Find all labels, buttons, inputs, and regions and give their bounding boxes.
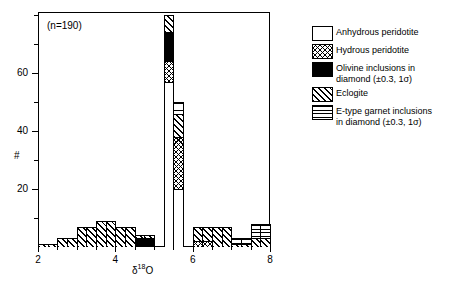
- x-axis-title-element: O: [145, 265, 153, 276]
- legend-item: Eclogite: [312, 87, 455, 102]
- y-tick-minor: [34, 160, 38, 161]
- sample-count-annotation: (n=190): [47, 20, 82, 31]
- bar-segment-garnet-inclusions: [260, 224, 271, 239]
- legend-swatch-diagonal-hatch: [312, 87, 333, 102]
- chart-root: (n=190) 204060 2468 # δ18O Anhydrous per…: [0, 0, 455, 298]
- y-tick-minor: [34, 15, 38, 16]
- histogram-bar: [173, 102, 184, 247]
- x-tick-major: [193, 247, 194, 252]
- bar-segment-eclogite: [173, 114, 184, 137]
- legend-label: E-type garnet inclusions in diamond (±0.…: [336, 105, 432, 127]
- legend-label: Olivine inclusions in diamond (±0.3, 1σ): [336, 62, 415, 84]
- legend-swatch-solid-black: [312, 62, 333, 77]
- x-tick-minor: [135, 247, 136, 250]
- y-tick-label: 20: [4, 183, 28, 194]
- x-tick-minor: [173, 247, 174, 250]
- x-tick-label: 8: [258, 254, 282, 265]
- x-tick-minor: [231, 247, 232, 250]
- y-tick-label: 60: [4, 67, 28, 78]
- y-tick-minor: [34, 44, 38, 45]
- x-tick-label: 4: [103, 254, 127, 265]
- y-tick-minor: [34, 218, 38, 219]
- bar-segment-eclogite: [144, 235, 155, 238]
- legend-swatch-solid-white: [312, 26, 333, 41]
- legend-item: Hydrous peridotite: [312, 44, 455, 59]
- histogram-bar: [144, 235, 155, 247]
- y-tick-minor: [34, 102, 38, 103]
- bar-segment-anhydrous-peridotite: [173, 189, 184, 247]
- x-tick-minor: [154, 247, 155, 250]
- bar-segment-eclogite: [260, 238, 271, 247]
- histogram-bars: [38, 12, 270, 247]
- x-tick-major: [38, 247, 39, 252]
- x-tick-minor: [77, 247, 78, 250]
- y-axis-title: #: [14, 150, 20, 161]
- legend-item: Anhydrous peridotite: [312, 26, 455, 41]
- x-tick-major: [270, 247, 271, 252]
- x-tick-minor: [251, 247, 252, 250]
- y-tick-label: 40: [4, 125, 28, 136]
- bar-segment-olivine-inclusions: [164, 32, 175, 61]
- legend-label: Anhydrous peridotite: [336, 26, 419, 38]
- legend-item: E-type garnet inclusions in diamond (±0.…: [312, 105, 455, 127]
- legend-label: Eclogite: [336, 87, 368, 99]
- legend-item: Olivine inclusions in diamond (±0.3, 1σ): [312, 62, 455, 84]
- bar-segment-hydrous-peridotite: [164, 61, 175, 81]
- legend-swatch-cross-hatch: [312, 44, 333, 59]
- bar-segment-hydrous-peridotite: [173, 137, 184, 189]
- x-axis-title: δ18O: [132, 263, 153, 276]
- x-tick-minor: [96, 247, 97, 250]
- bar-segment-garnet-inclusions: [173, 102, 184, 114]
- legend-label: Hydrous peridotite: [336, 44, 409, 56]
- histogram-bar: [260, 224, 271, 247]
- y-tick-major: [32, 73, 38, 74]
- bar-segment-eclogite: [164, 15, 175, 32]
- y-tick-major: [32, 189, 38, 190]
- y-tick-major: [32, 131, 38, 132]
- x-tick-major: [115, 247, 116, 252]
- legend-swatch-horizontal-lines: [312, 105, 333, 120]
- x-tick-minor: [57, 247, 58, 250]
- bar-segment-olivine-inclusions: [144, 238, 155, 247]
- x-tick-label: 2: [26, 254, 50, 265]
- legend: Anhydrous peridotiteHydrous peridotiteOl…: [312, 26, 455, 130]
- plot-area: [38, 12, 270, 247]
- x-tick-label: 6: [181, 254, 205, 265]
- x-tick-minor: [212, 247, 213, 250]
